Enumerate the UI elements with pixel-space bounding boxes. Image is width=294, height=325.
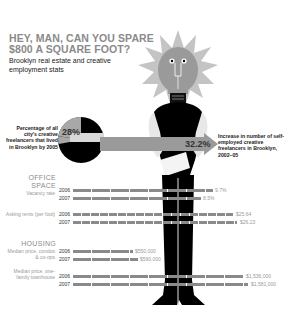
year-label: 2007 [59, 220, 73, 225]
vacancy-2006-bar [73, 189, 213, 192]
townhouse-price-label: Median price, one-family townhouse [4, 269, 55, 280]
vacancy-2007-bar [73, 197, 201, 200]
rents-2006-value: $25.64 [236, 212, 251, 217]
year-label: 2007 [59, 196, 73, 201]
rents-2007-bar [73, 221, 237, 224]
pie-value: 28% [62, 127, 80, 137]
increase-description: Increase in number of self-employed crea… [218, 133, 292, 158]
asking-rents-label: Asking rents (per foot) [4, 212, 55, 218]
condo-2006-bar [73, 250, 133, 253]
year-label: 2007 [59, 282, 73, 287]
year-label: 2006 [59, 249, 73, 254]
office-heading-line1: OFFICE [20, 174, 56, 182]
townhouse-2007-bar [73, 283, 248, 286]
condo-2007-bar [73, 258, 138, 261]
year-label: 2007 [59, 257, 73, 262]
office-heading-line2: SPACE [20, 182, 56, 190]
pie-chart [58, 111, 104, 169]
townhouse-2006-bar [73, 275, 243, 278]
townhouse-2006-value: $1,536,000 [246, 274, 271, 279]
vacancy-2007-value: 8.5% [203, 196, 214, 201]
rents-2006-bar [73, 213, 233, 216]
vacancy-2006-value: 9.7% [215, 188, 226, 193]
year-label: 2006 [59, 188, 73, 193]
housing-heading: HOUSING [10, 240, 56, 248]
increase-value: 32.2% [185, 139, 211, 149]
condo-price-label: Median price, condos & co-ops [4, 249, 55, 260]
year-label: 2006 [59, 212, 73, 217]
rents-2007-value: $26.23 [240, 220, 255, 225]
vacancy-rate-label: Vacancy rate [4, 191, 55, 197]
year-label: 2006 [59, 274, 73, 279]
condo-2006-value: $550,000 [135, 249, 156, 254]
townhouse-2007-value: $1,581,000 [251, 282, 276, 287]
pie-description: Percentage of all city's creative freela… [4, 125, 58, 150]
condo-2007-value: $590,000 [140, 257, 161, 262]
